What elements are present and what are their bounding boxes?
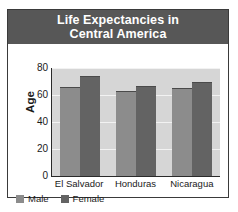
- x-label-el-salvador: El Salvador: [51, 178, 107, 190]
- legend-label-male: Male: [28, 194, 49, 204]
- plot-area: [51, 68, 220, 177]
- legend-swatch-male-icon: [16, 195, 24, 203]
- y-tick-label: 20: [24, 144, 48, 154]
- plot-wrapper: Age 80 60 40 20 0: [8, 44, 228, 197]
- y-tick-label: 40: [24, 117, 48, 127]
- bar-group: [52, 68, 108, 176]
- bar-female[interactable]: [80, 76, 100, 176]
- y-tick-label: 80: [24, 63, 48, 73]
- y-axis-tick-labels: 80 60 40 20 0: [24, 44, 48, 176]
- bar-male[interactable]: [60, 87, 80, 176]
- legend-item-male[interactable]: Male: [16, 194, 49, 204]
- chart-card: Life Expectancies in Central America Age…: [7, 9, 229, 198]
- bar-female[interactable]: [192, 82, 212, 177]
- legend-swatch-female-icon: [61, 195, 69, 203]
- x-label-honduras: Honduras: [107, 178, 163, 190]
- bar-male[interactable]: [172, 88, 192, 176]
- x-label-nicaragua: Nicaragua: [164, 178, 220, 190]
- bar-female[interactable]: [136, 86, 156, 176]
- y-tick-label: 60: [24, 90, 48, 100]
- chart-title-band: Life Expectancies in Central America: [8, 10, 228, 44]
- legend-item-female[interactable]: Female: [61, 194, 105, 204]
- bars-layer: [52, 68, 220, 176]
- bar-group: [164, 68, 220, 176]
- y-tick-label: 0: [24, 171, 48, 181]
- x-axis-category-labels: El Salvador Honduras Nicaragua: [51, 178, 220, 190]
- bar-male[interactable]: [116, 91, 136, 176]
- bar-group: [108, 68, 164, 176]
- legend-label-female: Female: [73, 194, 105, 204]
- chart-legend: Male Female: [16, 194, 104, 204]
- chart-title: Life Expectancies in Central America: [51, 13, 185, 41]
